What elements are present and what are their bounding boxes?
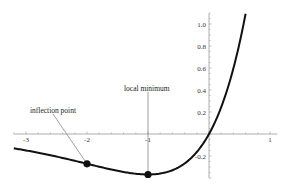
y-tick-label: 0.8 <box>197 43 206 51</box>
y-tick-label: 0.6 <box>197 65 206 73</box>
plot-area: -3-2-11-0.20.20.40.60.81.0 inflection po… <box>0 0 285 192</box>
annotations: inflection pointlocal minimum <box>30 84 170 178</box>
y-tick-label: 1.0 <box>197 21 206 29</box>
inflection-point-marker <box>83 160 90 167</box>
y-tick-label: 0.2 <box>197 109 206 117</box>
local-minimum-label: local minimum <box>124 84 170 93</box>
local-minimum-marker <box>144 171 151 178</box>
x-tick-label: 1 <box>268 136 272 144</box>
x-tick-label: -3 <box>23 136 29 144</box>
inflection-point-label: inflection point <box>30 106 77 115</box>
y-tick-label: 0.4 <box>197 87 206 95</box>
axes <box>14 13 278 178</box>
x-tick-label: -2 <box>84 136 90 144</box>
function-curve <box>14 14 246 175</box>
